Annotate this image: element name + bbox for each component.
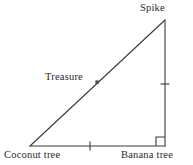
vertex-label-banana-tree: Banana tree: [121, 150, 173, 161]
vertex-label-coconut-tree: Coconut tree: [4, 150, 60, 161]
triangle-figure: [0, 0, 193, 165]
vertex-label-spike: Spike: [140, 3, 165, 14]
treasure-point-marker: [95, 80, 98, 83]
treasure-triangle-diagram: Spike Treasure Coconut tree Banana tree: [0, 0, 193, 165]
segment-label-treasure: Treasure: [45, 72, 83, 83]
right-angle-marker: [156, 137, 165, 146]
